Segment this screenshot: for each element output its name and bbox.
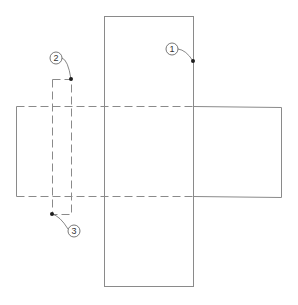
callout-3: 3 [50,212,80,237]
callout-2-label: 2 [53,53,58,63]
callout-3-point [50,212,54,216]
callout-3-label: 3 [71,226,76,236]
callout-1: 1 [166,43,195,63]
callout-1-point [191,59,195,63]
callout-1-leader [178,49,193,61]
hidden-slot [53,80,72,215]
callout-2-point [69,77,73,81]
vertical-panel [105,17,194,287]
callout-3-leader [52,214,68,229]
callout-1-label: 1 [169,44,174,54]
horizontal-panel-right-portion [194,107,282,198]
callout-2-leader [62,58,71,79]
technical-drawing: 1 2 3 [0,0,298,305]
callout-2: 2 [50,52,73,81]
